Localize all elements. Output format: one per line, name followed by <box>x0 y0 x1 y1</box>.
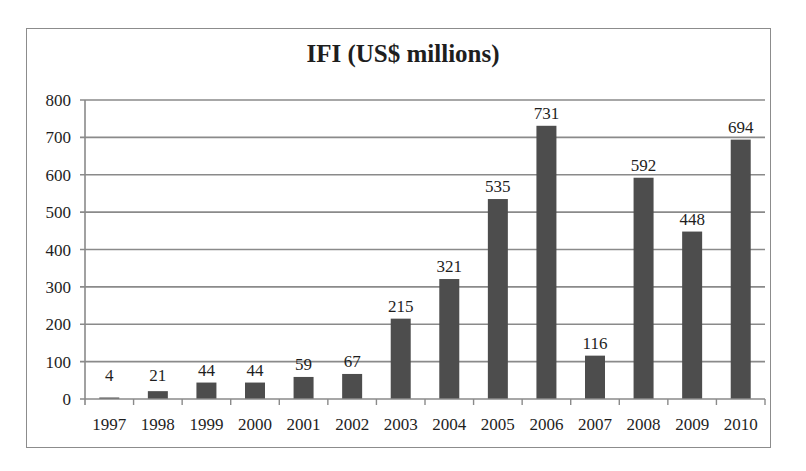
bar <box>731 140 751 399</box>
data-label: 4 <box>105 366 114 385</box>
bar <box>148 391 168 399</box>
x-tick-label: 2010 <box>724 415 758 434</box>
bar <box>391 319 411 399</box>
data-label: 116 <box>583 334 608 353</box>
data-label: 21 <box>149 366 166 385</box>
bar <box>585 356 605 399</box>
x-tick-label: 1998 <box>141 415 175 434</box>
y-tick-label: 0 <box>63 390 72 409</box>
axes <box>80 100 765 405</box>
y-tick-label: 600 <box>46 166 72 185</box>
data-label: 59 <box>295 355 312 374</box>
data-label: 67 <box>344 352 362 371</box>
y-tick-label: 100 <box>46 353 72 372</box>
x-tick-label: 2004 <box>432 415 467 434</box>
x-tick-label: 2008 <box>627 415 661 434</box>
bar <box>536 126 556 399</box>
gridlines <box>80 100 765 362</box>
data-label: 448 <box>679 210 705 229</box>
x-tick-label: 2000 <box>238 415 272 434</box>
y-tick-label: 400 <box>46 241 72 260</box>
x-tick-label: 2001 <box>287 415 321 434</box>
x-tick-label: 2006 <box>529 415 563 434</box>
bar <box>196 383 216 399</box>
data-label: 731 <box>534 104 560 123</box>
data-label: 321 <box>437 257 463 276</box>
x-tick-label: 2007 <box>578 415 613 434</box>
bar <box>439 279 459 399</box>
y-tick-label: 300 <box>46 278 72 297</box>
y-axis-ticks: 0100200300400500600700800 <box>46 91 72 409</box>
data-label: 44 <box>247 361 265 380</box>
x-tick-label: 1999 <box>189 415 223 434</box>
x-tick-label: 2009 <box>675 415 709 434</box>
y-tick-label: 200 <box>46 315 72 334</box>
x-tick-label: 2002 <box>335 415 369 434</box>
y-tick-label: 500 <box>46 203 72 222</box>
data-labels: 42144445967215321535731116592448694 <box>105 104 754 385</box>
x-axis-ticks: 1997199819992000200120022003200420052006… <box>92 415 757 434</box>
bar <box>342 374 362 399</box>
y-tick-label: 800 <box>46 91 72 110</box>
x-tick-label: 1997 <box>92 415 127 434</box>
bar-chart: 0100200300400500600700800 19971998199920… <box>0 0 806 471</box>
bar <box>245 383 265 399</box>
data-label: 215 <box>388 297 414 316</box>
bar <box>488 199 508 399</box>
x-tick-label: 2005 <box>481 415 515 434</box>
bar <box>294 377 314 399</box>
data-label: 535 <box>485 177 511 196</box>
data-label: 44 <box>198 361 216 380</box>
data-label: 694 <box>728 118 754 137</box>
bar <box>634 178 654 399</box>
bar <box>682 232 702 399</box>
x-tick-label: 2003 <box>384 415 418 434</box>
data-label: 592 <box>631 156 657 175</box>
y-tick-label: 700 <box>46 128 72 147</box>
